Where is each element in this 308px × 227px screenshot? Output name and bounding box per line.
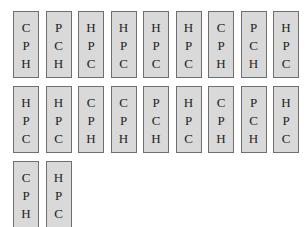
card-letter: P (152, 38, 159, 53)
card-letter: P (55, 20, 62, 35)
card-letter: H (151, 20, 160, 35)
card-letter: C (119, 95, 128, 110)
card-letter: H (249, 56, 258, 71)
card-letter: H (54, 95, 63, 110)
card-letter: H (21, 56, 30, 71)
card-letter: C (184, 131, 193, 146)
card-letter: P (152, 95, 159, 110)
card: HPC (143, 11, 169, 78)
card-letter: C (152, 56, 161, 71)
card-letter: P (250, 95, 257, 110)
card-row-2: HPC HPC CPH CPH PCH HPC CPH PCH HPC (13, 86, 306, 153)
card: CPH (78, 86, 104, 153)
card: PCH (241, 11, 267, 78)
card: PCH (241, 86, 267, 153)
card-letter: H (119, 20, 128, 35)
card-letter: H (54, 170, 63, 185)
card-letter: C (119, 56, 128, 71)
card: HPC (46, 86, 72, 153)
card-letter: C (22, 170, 31, 185)
card-letter: C (249, 113, 258, 128)
card-letter: P (185, 113, 192, 128)
card-letter: H (151, 131, 160, 146)
card-letter: C (152, 113, 161, 128)
card-letter: H (54, 56, 63, 71)
card-letter: C (184, 56, 193, 71)
card-letter: C (249, 38, 258, 53)
card: CPH (111, 86, 137, 153)
card: HPC (273, 11, 299, 78)
card-letter: P (120, 38, 127, 53)
card-letter: C (54, 38, 63, 53)
card-letter: C (282, 56, 291, 71)
card-letter: H (86, 131, 95, 146)
card-letter: P (217, 113, 224, 128)
card-letter: P (185, 38, 192, 53)
card-letter: C (217, 95, 226, 110)
card-letter: H (249, 131, 258, 146)
card-letter: C (22, 131, 31, 146)
card: CPH (208, 86, 234, 153)
card-letter: C (22, 20, 31, 35)
card-letter: H (21, 95, 30, 110)
card: PCH (46, 11, 72, 78)
card-letter: P (22, 188, 29, 203)
card: HPC (111, 11, 137, 78)
card-row-3: CPH HPC (13, 161, 306, 227)
card: HPC (176, 11, 202, 78)
card: HPC (13, 86, 39, 153)
card-letter: P (55, 188, 62, 203)
card-letter: C (54, 131, 63, 146)
card-row-1: CPH PCH HPC HPC HPC HPC CPH PCH HPC (13, 11, 306, 78)
card: CPH (13, 161, 39, 227)
card-letter: C (282, 131, 291, 146)
card-grid: CPH PCH HPC HPC HPC HPC CPH PCH HPC HPC … (13, 11, 306, 227)
card-letter: C (217, 20, 226, 35)
card-letter: H (216, 56, 225, 71)
card-letter: P (55, 113, 62, 128)
card: HPC (46, 161, 72, 227)
card-letter: H (184, 95, 193, 110)
card-letter: C (87, 95, 96, 110)
card: CPH (13, 11, 39, 78)
card: HPC (78, 11, 104, 78)
card-letter: P (22, 113, 29, 128)
card-letter: P (282, 38, 289, 53)
card-letter: H (281, 20, 290, 35)
card-letter: P (87, 113, 94, 128)
card-letter: H (281, 95, 290, 110)
card-letter: H (21, 206, 30, 221)
card-letter: P (282, 113, 289, 128)
card-letter: H (119, 131, 128, 146)
card-letter: C (87, 56, 96, 71)
card-letter: C (54, 206, 63, 221)
card-letter: H (184, 20, 193, 35)
card-letter: P (87, 38, 94, 53)
card-letter: P (250, 20, 257, 35)
card-letter: P (120, 113, 127, 128)
card-letter: H (216, 131, 225, 146)
card-letter: P (217, 38, 224, 53)
card: HPC (273, 86, 299, 153)
card: PCH (143, 86, 169, 153)
card-letter: H (86, 20, 95, 35)
card-letter: P (22, 38, 29, 53)
card: CPH (208, 11, 234, 78)
card: HPC (176, 86, 202, 153)
